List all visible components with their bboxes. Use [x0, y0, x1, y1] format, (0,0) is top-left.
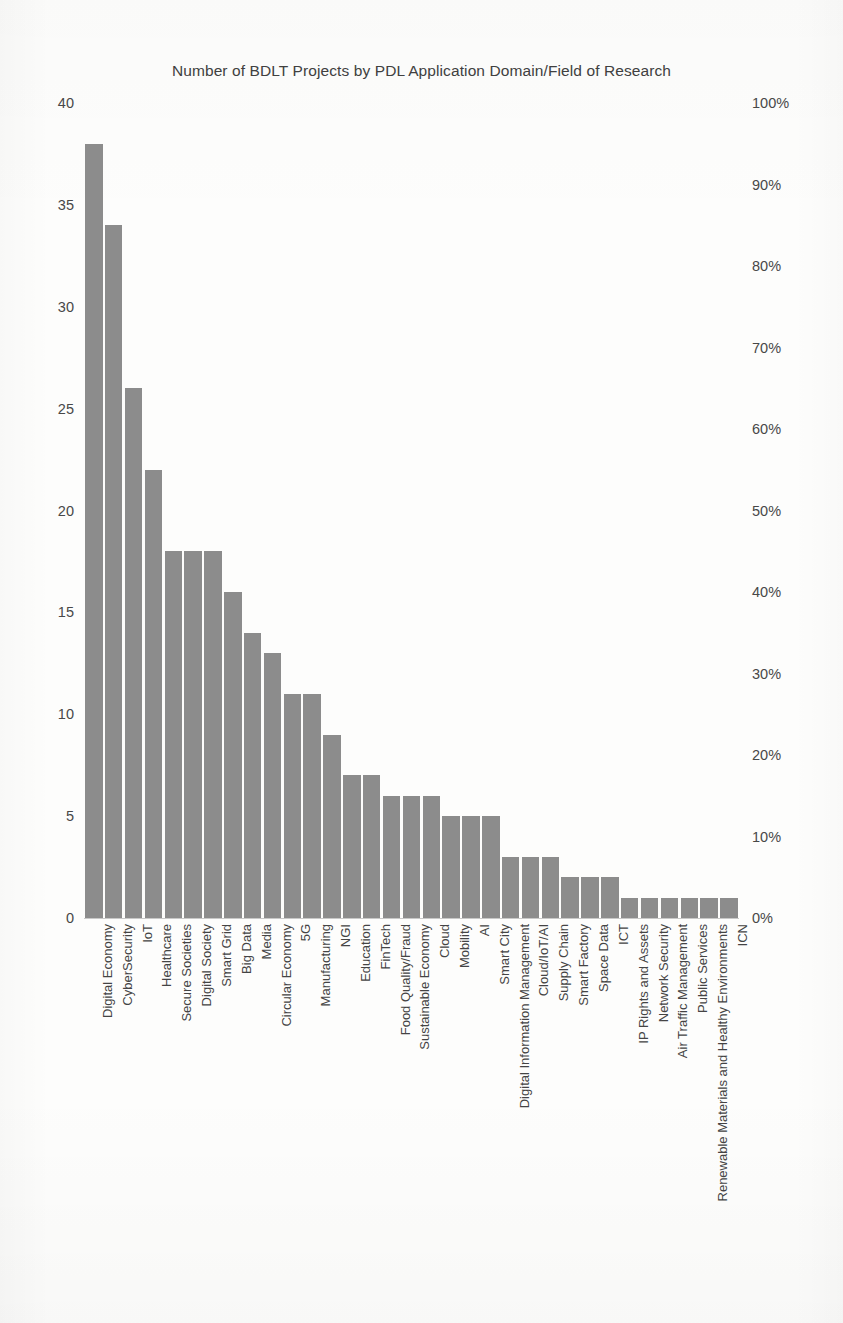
bar[interactable]	[244, 633, 261, 918]
bar-slot	[243, 103, 263, 918]
bar[interactable]	[403, 796, 420, 918]
x-axis-label-slot: Mobility	[441, 924, 461, 1254]
bar-slot	[580, 103, 600, 918]
x-axis-label-slot: Network Security	[640, 924, 660, 1254]
bar[interactable]	[165, 551, 182, 918]
y-axis-left-tick: 35	[58, 197, 74, 213]
bar[interactable]	[284, 694, 301, 918]
x-axis-label-slot: ICN	[719, 924, 739, 1254]
x-axis-label-slot: Supply Chain	[540, 924, 560, 1254]
y-axis-left-tick: 30	[58, 299, 74, 315]
bar-slot	[640, 103, 660, 918]
y-axis-right-percent: 0%10%20%30%40%50%60%70%80%90%100%	[752, 103, 822, 918]
bar[interactable]	[641, 898, 658, 918]
bar-slot	[521, 103, 541, 918]
bar[interactable]	[661, 898, 678, 918]
bar[interactable]	[184, 551, 201, 918]
bar-slot	[620, 103, 640, 918]
bar[interactable]	[145, 470, 162, 918]
bar[interactable]	[303, 694, 320, 918]
bar[interactable]	[343, 775, 360, 918]
bar[interactable]	[323, 735, 340, 918]
bar-slot	[144, 103, 164, 918]
x-axis-baseline	[84, 918, 739, 919]
bar[interactable]	[700, 898, 717, 918]
bar-slot	[441, 103, 461, 918]
bar-slot	[402, 103, 422, 918]
bar[interactable]	[442, 816, 459, 918]
bar-slot	[481, 103, 501, 918]
bar[interactable]	[85, 144, 102, 918]
x-axis-label-slot: Sustainable Economy	[402, 924, 422, 1254]
y-axis-left-tick: 15	[58, 604, 74, 620]
x-axis-label-slot: Smart Factory	[560, 924, 580, 1254]
y-axis-left-tick: 25	[58, 401, 74, 417]
x-axis-label-slot: Education	[342, 924, 362, 1254]
bar-slot	[461, 103, 481, 918]
x-axis-label-slot: Media	[243, 924, 263, 1254]
bar[interactable]	[462, 816, 479, 918]
x-axis-label-slot: Cloud	[421, 924, 441, 1254]
y-axis-left-tick: 40	[58, 95, 74, 111]
bar-slot	[719, 103, 739, 918]
x-axis-label-slot: 5G	[282, 924, 302, 1254]
x-axis-label-slot: Renewable Materials and Healthy Environm…	[699, 924, 719, 1254]
x-axis-label-slot: Digital Information Management	[501, 924, 521, 1254]
bar[interactable]	[502, 857, 519, 918]
y-axis-left-tick: 5	[66, 808, 74, 824]
bar-slot	[659, 103, 679, 918]
bar[interactable]	[105, 225, 122, 918]
bar[interactable]	[383, 796, 400, 918]
x-axis-label-slot: AI	[461, 924, 481, 1254]
bar[interactable]	[125, 388, 142, 918]
bar-slot	[362, 103, 382, 918]
bar[interactable]	[621, 898, 638, 918]
x-axis-label-slot: Digital Society	[183, 924, 203, 1254]
bar[interactable]	[720, 898, 737, 918]
y-axis-left-tick: 0	[66, 910, 74, 926]
bar[interactable]	[561, 877, 578, 918]
x-axis-label-slot: CyberSecurity	[104, 924, 124, 1254]
x-axis-label: ICN	[735, 924, 748, 946]
bar[interactable]	[522, 857, 539, 918]
y-axis-right-tick: 100%	[752, 95, 789, 111]
x-axis-label-slot: ICT	[600, 924, 620, 1254]
y-axis-right-tick: 0%	[752, 910, 773, 926]
x-axis-label-slot: Public Services	[679, 924, 699, 1254]
bar[interactable]	[204, 551, 221, 918]
bar-slot	[302, 103, 322, 918]
x-axis-category-labels: Digital EconomyCyberSecurityIoTHealthcar…	[84, 924, 739, 1254]
y-axis-left-tick: 20	[58, 503, 74, 519]
bar[interactable]	[423, 796, 440, 918]
y-axis-right-tick: 50%	[752, 503, 781, 519]
y-axis-right-tick: 70%	[752, 340, 781, 356]
bar[interactable]	[482, 816, 499, 918]
bar-slot	[679, 103, 699, 918]
bar[interactable]	[363, 775, 380, 918]
x-axis-label-slot: Smart City	[481, 924, 501, 1254]
y-axis-right-tick: 80%	[752, 258, 781, 274]
bar-slot	[600, 103, 620, 918]
x-axis-label-slot: Digital Economy	[84, 924, 104, 1254]
bar-slot	[104, 103, 124, 918]
x-axis-label-slot: Air Traffic Management	[659, 924, 679, 1254]
bar-slot	[263, 103, 283, 918]
bar-slot	[163, 103, 183, 918]
bar-slot	[699, 103, 719, 918]
chart-page: Number of BDLT Projects by PDL Applicati…	[0, 0, 843, 1323]
bar[interactable]	[581, 877, 598, 918]
x-axis-label-slot: IoT	[124, 924, 144, 1254]
y-axis-right-tick: 30%	[752, 666, 781, 682]
bar-slot	[282, 103, 302, 918]
bar[interactable]	[601, 877, 618, 918]
bar[interactable]	[542, 857, 559, 918]
bar[interactable]	[264, 653, 281, 918]
x-axis-label-slot: Smart Grid	[203, 924, 223, 1254]
bar[interactable]	[681, 898, 698, 918]
bar-slot	[203, 103, 223, 918]
bar[interactable]	[224, 592, 241, 918]
bar-slot	[540, 103, 560, 918]
x-axis-label-slot: Circular Economy	[263, 924, 283, 1254]
bar-slot	[342, 103, 362, 918]
bar-slot	[560, 103, 580, 918]
